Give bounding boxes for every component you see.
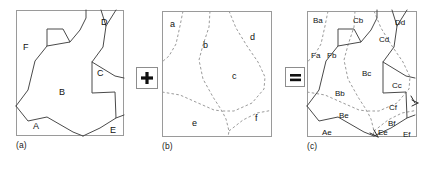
region-label: Dd (395, 19, 405, 27)
region-boundary-solid (407, 115, 415, 118)
region-boundary-solid (16, 106, 83, 136)
region-label: Cd (379, 36, 389, 44)
region-label: E (110, 126, 116, 135)
region-label: Bb (335, 90, 345, 98)
region-boundary-dashed (222, 11, 265, 111)
panel-b: abdcef (162, 11, 272, 137)
region-label: e (192, 119, 197, 128)
figure-canvas: DFCBAE (a) abdcef (b) BaCbDdCdFaFbBcCcBb… (0, 0, 444, 171)
region-label: Ba (313, 17, 323, 25)
region-label: Fb (327, 52, 336, 60)
region-label: F (23, 43, 29, 52)
region-label: Be (339, 112, 349, 120)
region-label: Cc (392, 82, 402, 90)
panel-b-caption: (b) (162, 141, 173, 151)
region-label: Bc (362, 70, 371, 78)
region-label: a (170, 20, 175, 29)
region-boundary-solid (116, 115, 124, 118)
region-label: A (33, 122, 39, 131)
vertex-marker (411, 96, 415, 103)
region-label: Ee (378, 129, 388, 137)
region-label: Fa (311, 52, 320, 60)
region-boundary-dashed (162, 92, 222, 111)
region-boundary-solid (70, 10, 86, 42)
region-boundary-solid (374, 10, 407, 136)
region-boundary-dashed (199, 11, 229, 137)
panel-c-caption: (c) (307, 141, 317, 151)
region-label: c (232, 72, 237, 81)
plus-icon (140, 71, 154, 85)
region-boundary-solid (383, 62, 415, 78)
region-label: Cb (353, 17, 363, 25)
region-label: C (97, 69, 104, 78)
panel-a-caption: (a) (16, 140, 27, 150)
region-label: Ef (403, 131, 411, 139)
region-boundary-solid (307, 29, 361, 106)
region-boundary-dashed (229, 110, 272, 131)
region-label: Ae (322, 129, 332, 137)
equals-icon (289, 71, 302, 84)
region-label: f (255, 114, 258, 123)
region-label: D (101, 18, 108, 27)
region-label: b (203, 41, 208, 50)
region-label: Bf (388, 120, 396, 128)
plus-operator (136, 67, 158, 89)
region-boundary-solid (361, 10, 377, 42)
region-label: Cf (389, 104, 397, 112)
region-label: B (59, 88, 65, 97)
panel-c: BaCbDdCdFaFbBcCcBbCfBeBfAeEeEf (307, 11, 417, 137)
equals-operator (285, 67, 305, 87)
region-label: d (250, 33, 255, 42)
panel-a: DFCBAE (16, 10, 124, 136)
panel-a-lines (16, 10, 124, 136)
